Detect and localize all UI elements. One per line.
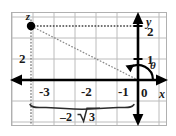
x-tick-label-neg2: -2 (81, 84, 92, 99)
angle-theta-label: θ (150, 59, 156, 71)
brace-label-prefix: –2 (59, 110, 72, 124)
x-tick-label-neg1: -1 (118, 84, 129, 99)
point-z-label: z (25, 10, 31, 22)
x-tick-label-neg3: -3 (39, 84, 50, 99)
brace-label-radicand: 3 (89, 110, 95, 124)
figure-container: z y 2 1 2 -3 -2 -1 0 x θ –2 3 (0, 0, 176, 136)
left-value-label-2: 2 (19, 51, 26, 66)
x-axis-label: x (158, 87, 165, 101)
y-tick-label-2: 2 (147, 24, 154, 39)
coordinate-plane-figure: z y 2 1 2 -3 -2 -1 0 x θ –2 3 (0, 0, 176, 136)
point-z-marker (27, 22, 35, 30)
origin-label-0: 0 (141, 85, 148, 100)
